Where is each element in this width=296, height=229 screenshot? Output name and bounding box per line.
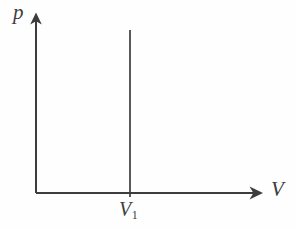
v1-tick-label: V1 xyxy=(119,199,138,221)
v-axis xyxy=(36,187,263,200)
v1-tick-label-subscript: 1 xyxy=(131,208,138,222)
diagram-canvas xyxy=(0,0,296,229)
p-axis-label: p xyxy=(13,2,24,23)
p-axis xyxy=(30,13,42,194)
v-axis-label: V xyxy=(271,179,284,200)
pv-diagram-figure: p V V1 xyxy=(0,0,296,229)
v1-tick-label-base: V xyxy=(119,198,131,220)
